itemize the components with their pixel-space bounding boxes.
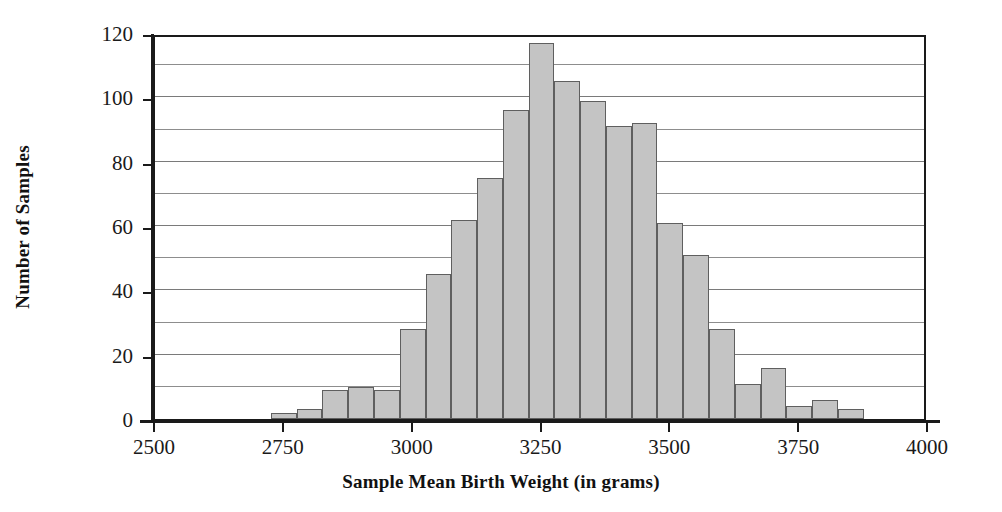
y-axis-tick-label: 80 <box>0 153 133 174</box>
histogram-bar <box>271 413 297 419</box>
plot-area <box>153 35 926 421</box>
x-axis-tick <box>282 421 284 432</box>
x-axis-title: Sample Mean Birth Weight (in grams) <box>0 471 1002 493</box>
histogram-bar <box>400 329 426 419</box>
y-axis-tick <box>143 164 151 166</box>
y-axis-tick-label: 40 <box>0 281 133 302</box>
x-axis-tick <box>411 421 413 432</box>
x-axis-tick-label: 2750 <box>262 436 304 458</box>
x-axis-tick <box>153 421 155 432</box>
histogram-bar <box>426 274 452 419</box>
y-axis-tick <box>143 35 151 37</box>
histogram-bars <box>155 37 924 419</box>
x-axis-tick-label: 3750 <box>777 436 819 458</box>
histogram-bar <box>503 110 529 419</box>
histogram-bar <box>374 390 400 419</box>
histogram-bar <box>838 409 864 419</box>
x-axis-tick <box>668 421 670 432</box>
histogram-bar <box>632 123 658 419</box>
x-axis-tick <box>797 421 799 432</box>
y-axis-tick <box>143 228 151 230</box>
y-axis-tick-label: 60 <box>0 217 133 238</box>
histogram-bar <box>786 406 812 419</box>
x-axis-tick <box>540 421 542 432</box>
histogram-bar <box>477 178 503 419</box>
y-axis-tick <box>143 99 151 101</box>
histogram-bar <box>735 384 761 419</box>
histogram-bar <box>683 255 709 419</box>
y-axis-tick <box>143 292 151 294</box>
y-axis-tick-label: 100 <box>0 88 133 109</box>
histogram-bar <box>297 409 323 419</box>
x-axis-tick-label: 2500 <box>133 436 175 458</box>
y-axis-tick-label: 120 <box>0 24 133 45</box>
histogram-figure: Number of Samples 020406080100120 250027… <box>0 0 1002 512</box>
histogram-bar <box>451 220 477 419</box>
histogram-bar <box>657 223 683 419</box>
histogram-bar <box>761 368 787 419</box>
x-axis-tick-label: 3500 <box>648 436 690 458</box>
histogram-bar <box>322 390 348 419</box>
histogram-bar <box>606 126 632 419</box>
y-axis-tick-label: 20 <box>0 346 133 367</box>
x-axis-tick-label: 3000 <box>391 436 433 458</box>
y-axis-tick <box>143 357 151 359</box>
x-axis-tick-label: 4000 <box>906 436 948 458</box>
histogram-bar <box>554 81 580 419</box>
x-axis-tick <box>926 421 928 432</box>
y-axis-tick-labels: 020406080100120 <box>0 0 140 512</box>
y-axis-tick-label: 0 <box>0 410 133 431</box>
histogram-bar <box>580 101 606 419</box>
y-axis-line <box>151 34 154 422</box>
histogram-bar <box>812 400 838 419</box>
x-axis-tick-label: 3250 <box>520 436 562 458</box>
histogram-bar <box>348 387 374 419</box>
histogram-bar <box>709 329 735 419</box>
histogram-bar <box>529 43 555 419</box>
